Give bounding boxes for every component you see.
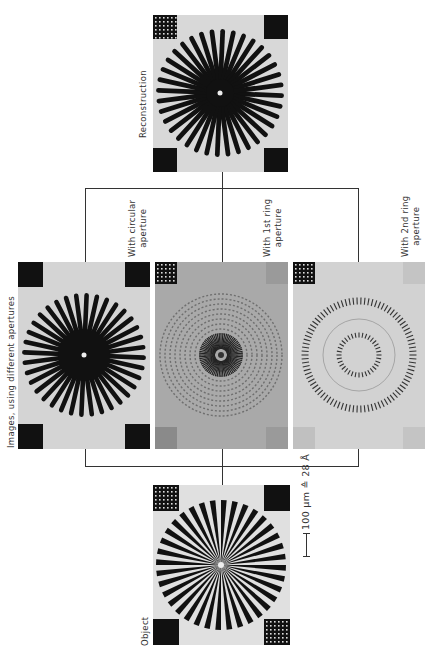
grid-dot (171, 487, 173, 489)
ring-dash (315, 387, 320, 391)
grid-dot (161, 272, 163, 274)
grid-dot (303, 272, 305, 274)
ring2-aperture-label: With 2nd ring aperture (400, 196, 422, 257)
ring-dash (348, 336, 351, 340)
grid-dot (167, 507, 169, 509)
grid-dot (165, 272, 167, 274)
grid-dot (274, 625, 276, 627)
scale-bar (306, 533, 307, 557)
grid-dot (155, 37, 157, 39)
ring-dash (370, 368, 373, 372)
ring-dash (390, 395, 394, 401)
grid-dot (266, 633, 268, 635)
grid-dot (282, 625, 284, 627)
grid-dot (295, 272, 297, 274)
grid-dot (163, 487, 165, 489)
corner-block (18, 424, 43, 449)
corner-block (155, 427, 177, 449)
grid-dot (171, 503, 173, 505)
grid-dot (266, 621, 268, 623)
ring-dash (405, 376, 411, 379)
ring-dash (338, 347, 343, 349)
grid-dot (295, 268, 297, 270)
connector-top-left (85, 188, 86, 262)
ring-dash (374, 364, 378, 367)
ring-dash (364, 405, 365, 412)
ring-dash (375, 347, 380, 349)
grid-dot (167, 37, 169, 39)
ring-dash (306, 376, 312, 379)
ring-dash (368, 370, 371, 374)
grid-dot (295, 276, 297, 278)
images-group-label: Images, using different apertures (6, 296, 17, 448)
corner-block (264, 485, 290, 511)
grid-dot (286, 641, 288, 643)
grid-dot (159, 499, 161, 501)
ring-dash (353, 405, 354, 412)
ring-dash (304, 369, 311, 371)
grid-dot (157, 280, 159, 282)
ring-dash (395, 390, 400, 395)
ring-dash (340, 344, 344, 347)
corner-block (266, 262, 288, 284)
grid-dot (175, 499, 177, 501)
ring-dash (406, 372, 413, 374)
ring-dash (362, 333, 363, 338)
grid-dot (155, 17, 157, 19)
grid-dot (175, 21, 177, 23)
ring-dash (365, 334, 367, 339)
ring1-label-line2: aperture (273, 199, 284, 257)
grid-dot (295, 264, 297, 266)
circular-aperture-label: With circular aperture (127, 200, 149, 257)
grid-dot (270, 625, 272, 627)
ring-dash (310, 382, 316, 386)
grid-dot (155, 507, 157, 509)
grid-dot (155, 33, 157, 35)
ring-dash (353, 298, 354, 305)
grid-dot (175, 487, 177, 489)
grid-dot (266, 625, 268, 627)
grid-dot (173, 276, 175, 278)
grid-dot (163, 29, 165, 31)
ring-dash (375, 300, 377, 307)
ring-dash (308, 379, 314, 382)
grid-dot (161, 268, 163, 270)
connector-top-right (358, 188, 359, 262)
ring-dash (378, 302, 381, 308)
corner-block (266, 427, 288, 449)
ring-dash (375, 403, 377, 410)
grid-dot (175, 495, 177, 497)
grid-dot (270, 633, 272, 635)
grid-dot (159, 507, 161, 509)
ring-dash (355, 372, 356, 377)
ring-dash (345, 299, 347, 306)
star-spoke (156, 559, 221, 565)
circular-label-line1: With circular (127, 200, 137, 257)
ring-dash (341, 403, 343, 410)
ring1-aperture-image (155, 262, 288, 449)
grid-dot (175, 491, 177, 493)
grid-dot (278, 621, 280, 623)
grid-dot (266, 629, 268, 631)
ring-dash (337, 358, 342, 359)
ring-dash (303, 343, 310, 344)
grid-dot (167, 503, 169, 505)
grid-dot (159, 495, 161, 497)
grid-dot (286, 625, 288, 627)
reconstruction-image (153, 15, 288, 172)
scale-bar-label: 100 μm ≙ 28 Å (300, 454, 311, 530)
ring-dash (364, 298, 365, 305)
grid-dot (171, 495, 173, 497)
grid-dot (311, 268, 313, 270)
ring-dash (308, 328, 314, 331)
grid-dot (175, 37, 177, 39)
grid-dot (171, 491, 173, 493)
grid-dot (163, 499, 165, 501)
grid-dot (307, 280, 309, 282)
grid-dot (163, 17, 165, 19)
ring-dash (304, 339, 311, 341)
grid-dot (157, 272, 159, 274)
ring-dash (330, 399, 334, 405)
grid-dot (278, 629, 280, 631)
grid-dot (155, 21, 157, 23)
